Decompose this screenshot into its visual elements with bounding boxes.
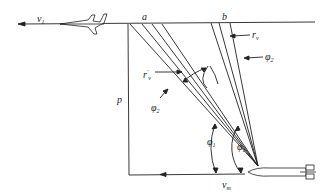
missile-icon xyxy=(248,165,316,179)
rv-label: rv xyxy=(252,30,259,43)
diagram-drawing xyxy=(0,0,331,193)
v1-label: v1 xyxy=(37,14,44,27)
missile-path-line xyxy=(129,174,245,175)
distance-p-line xyxy=(128,24,129,175)
v1-arrowhead xyxy=(18,22,25,26)
aircraft-icon xyxy=(60,14,107,34)
phi2-right-label: φ2 xyxy=(265,52,274,65)
rv-prime-label: r′v xyxy=(143,67,151,83)
phi-label: φ1 xyxy=(237,142,246,155)
point-a-label: a xyxy=(142,12,147,22)
point-b-label: b xyxy=(222,12,227,22)
phi1-label: φ1 xyxy=(207,137,216,150)
vm-arrowhead xyxy=(160,173,166,177)
phi2-arc xyxy=(210,66,218,84)
phi2-left-label: φ2 xyxy=(151,103,160,116)
distance-p-label: p xyxy=(117,95,122,105)
vm-label: vm xyxy=(222,180,231,193)
missile-guidance-diagram: v1 a b rv φ2 r′v φ2 φ1 φ1 p vm xyxy=(0,0,331,193)
